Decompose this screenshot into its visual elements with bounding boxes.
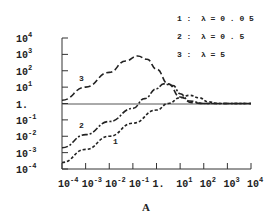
x-tick-label: 1. <box>153 179 165 190</box>
x-tick-label: 10-4 <box>58 176 78 190</box>
y-ticks: 1041031021011.10-110-210-310-4 <box>16 31 68 176</box>
y-tick-label: 10-3 <box>16 146 36 160</box>
y-tick-label: 1. <box>16 100 28 111</box>
y-tick-label: 10-2 <box>16 129 36 143</box>
y-tick-label: 10-4 <box>16 162 36 176</box>
legend-item-1: 1 : λ = 0 . 0 5 <box>177 14 254 23</box>
y-tick-label: 101 <box>16 80 32 94</box>
legend-item-3: 3 : λ = 5 <box>177 50 225 59</box>
x-tick-label: 10-1 <box>129 176 149 190</box>
x-tick-label: 102 <box>200 176 216 190</box>
curve-3 <box>62 56 251 103</box>
legend: 1 : λ = 0 . 0 5 2 : λ = 0 . 5 3 : λ = 5 <box>177 14 254 59</box>
y-tick-label: 103 <box>16 47 32 61</box>
x-tick-label: 10-2 <box>105 176 125 190</box>
x-tick-label: 104 <box>247 176 263 190</box>
curves <box>62 56 251 162</box>
curve-1 <box>62 95 251 162</box>
curve-label-3: 3 <box>79 74 84 83</box>
y-tick-label: 10-1 <box>16 113 36 127</box>
x-tick-label: 10-3 <box>82 176 102 190</box>
figure-caption: A <box>142 201 150 213</box>
x-tick-label: 101 <box>176 176 192 190</box>
curve-label-2: 2 <box>79 121 84 130</box>
x-tick-label: 103 <box>223 176 239 190</box>
x-ticks: 10-410-310-210-11.101102103104 <box>58 163 263 190</box>
y-tick-label: 102 <box>16 64 32 78</box>
y-tick-label: 104 <box>16 31 32 45</box>
chart: 1041031021011.10-110-210-310-4 10-410-31… <box>0 0 278 221</box>
curve-label-1: 1 <box>113 137 118 146</box>
curve-2 <box>62 84 251 148</box>
legend-item-2: 2 : λ = 0 . 5 <box>177 32 244 41</box>
